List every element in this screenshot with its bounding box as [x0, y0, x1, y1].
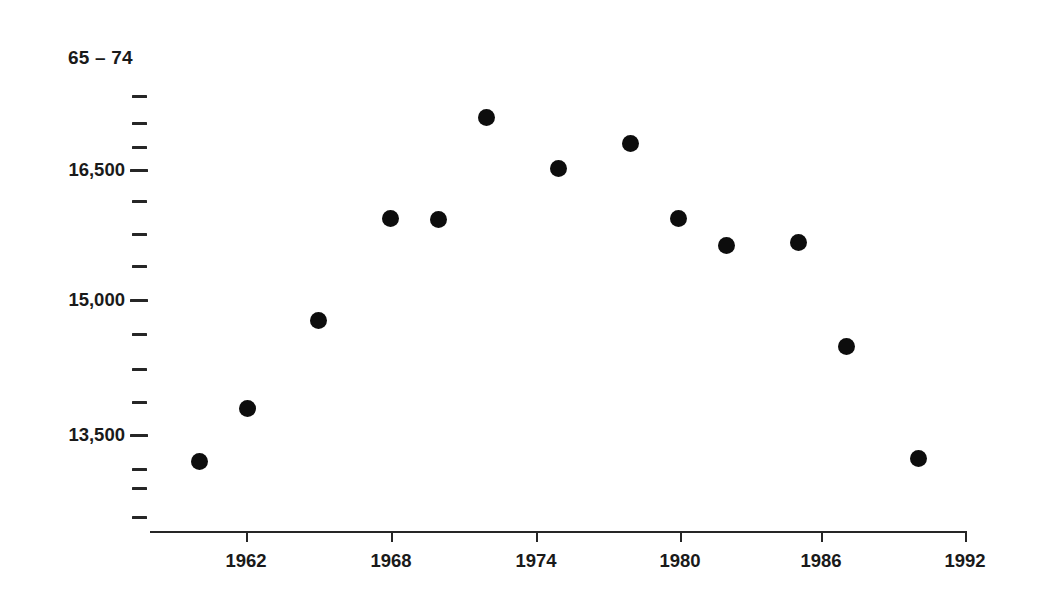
y-tick-mark-minor: [132, 122, 147, 125]
y-tick-mark-minor: [132, 468, 147, 471]
data-point: [910, 450, 927, 467]
data-point: [430, 211, 447, 228]
x-tick-mark-1986: [821, 531, 823, 542]
y-tick-mark-major-13500: [130, 434, 148, 437]
chart-title: 65 – 74: [68, 47, 133, 69]
x-tick-mark-1974: [536, 531, 538, 542]
x-tick-mark-1968: [391, 531, 393, 542]
y-tick-label-15000: 15,000: [20, 289, 125, 311]
x-tick-mark-1980: [680, 531, 682, 542]
x-tick-label-1962: 1962: [196, 550, 296, 572]
x-axis-line: [150, 531, 967, 533]
x-tick-label-1980: 1980: [630, 550, 730, 572]
y-tick-mark-major-16500: [130, 169, 148, 172]
x-tick-mark-1992: [965, 531, 967, 542]
y-tick-mark-major-15000: [130, 299, 148, 302]
y-tick-mark-minor: [132, 233, 147, 236]
data-point: [191, 453, 208, 470]
y-tick-mark-minor: [132, 368, 147, 371]
y-tick-mark-minor: [132, 146, 147, 149]
x-tick-label-1986: 1986: [771, 550, 871, 572]
y-tick-label-13500: 13,500: [20, 424, 125, 446]
y-tick-mark-minor: [132, 200, 147, 203]
data-point: [239, 400, 256, 417]
y-tick-label-16500: 16,500: [20, 159, 125, 181]
x-tick-label-1992: 1992: [915, 550, 1015, 572]
data-point: [790, 234, 807, 251]
data-point: [718, 237, 735, 254]
data-point: [310, 312, 327, 329]
y-tick-mark-minor: [132, 265, 147, 268]
y-tick-mark-minor: [132, 516, 147, 519]
data-points-layer: [0, 0, 1039, 611]
y-tick-mark-minor: [132, 401, 147, 404]
y-tick-mark-minor: [132, 487, 147, 490]
data-point: [622, 135, 639, 152]
data-point: [550, 160, 567, 177]
x-tick-mark-1962: [246, 531, 248, 542]
scatter-chart: 65 – 74 16,500 15,000 13,500 1962 1968 1…: [0, 0, 1039, 611]
y-tick-mark-minor: [132, 333, 147, 336]
data-point: [838, 338, 855, 355]
x-tick-label-1968: 1968: [341, 550, 441, 572]
y-tick-mark-minor: [132, 95, 147, 98]
x-tick-label-1974: 1974: [486, 550, 586, 572]
data-point: [382, 210, 399, 227]
data-point: [478, 109, 495, 126]
data-point: [670, 210, 687, 227]
